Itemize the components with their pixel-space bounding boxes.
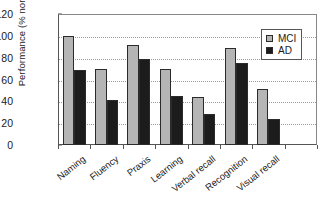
bar-group: [225, 14, 248, 145]
x-tick-mark: [188, 145, 189, 149]
bar-group: [95, 14, 118, 145]
bar-ad: [107, 100, 119, 145]
bar-ad: [139, 59, 151, 145]
bar-mci: [127, 45, 139, 145]
bar-mci: [257, 89, 269, 145]
bar-group: [63, 14, 86, 145]
y-tick-label: 40: [0, 95, 13, 107]
chart-legend: MCIAD: [261, 29, 302, 60]
y-tick-label: 80: [0, 52, 13, 64]
bar-ad: [268, 119, 280, 145]
x-tick-mark: [123, 145, 124, 149]
y-tick-label: 0: [0, 139, 13, 151]
bar-group: [192, 14, 215, 145]
bar-mci: [63, 36, 75, 145]
bar-ad: [171, 96, 183, 145]
x-tick-mark: [220, 145, 221, 149]
x-tick-mark: [155, 145, 156, 149]
y-axis-title: Performance (% normal): [16, 0, 27, 99]
bar-mci: [225, 48, 237, 145]
legend-swatch-ad: [266, 47, 273, 54]
legend-label: AD: [278, 45, 292, 56]
x-tick-mark: [252, 145, 253, 149]
legend-label: MCI: [278, 33, 296, 44]
y-tick-label: 20: [0, 117, 13, 129]
bar-chart-figure: Performance (% normal) 020406080100120 N…: [0, 0, 335, 207]
x-axis-category-label: Naming: [0, 153, 88, 207]
x-tick-mark: [285, 145, 286, 149]
y-tick-label: 60: [0, 74, 13, 86]
bar-mci: [95, 69, 107, 145]
legend-swatch-mci: [266, 35, 273, 42]
y-tick-label: 120: [0, 8, 13, 20]
bar-mci: [192, 97, 204, 145]
x-tick-mark: [58, 145, 59, 149]
bar-mci: [160, 69, 172, 145]
bar-ad: [74, 70, 86, 145]
y-tick-label: 100: [0, 30, 13, 42]
x-tick-mark: [317, 145, 318, 149]
bar-ad: [236, 63, 248, 145]
x-tick-mark: [90, 145, 91, 149]
legend-item: MCI: [266, 32, 296, 44]
bar-ad: [204, 114, 216, 145]
legend-item: AD: [266, 44, 296, 56]
bar-group: [160, 14, 183, 145]
bar-group: [127, 14, 150, 145]
